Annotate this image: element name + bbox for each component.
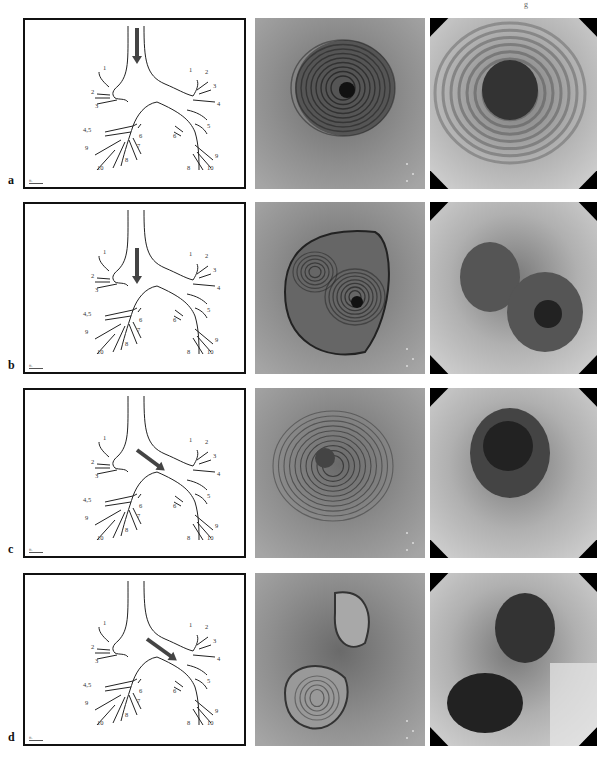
svg-text:8: 8 (125, 526, 128, 533)
svg-text:7: 7 (137, 512, 141, 519)
svg-text:1: 1 (189, 250, 192, 257)
svg-text:4: 4 (217, 470, 221, 477)
bronchial-tree-diagram: 1 2 3 4,5 6 7 8 9 10 1 2 3 4 5 6 8 9 10 … (23, 573, 246, 746)
scale-bar: ft. (29, 363, 43, 369)
virtual-bronchoscopy-image (255, 388, 425, 558)
svg-text:1: 1 (103, 434, 106, 441)
svg-text:3: 3 (95, 472, 98, 479)
svg-text:2: 2 (91, 272, 94, 279)
svg-text:10: 10 (97, 719, 104, 726)
scale-bar: ft. (29, 735, 43, 741)
endoscopic-image (430, 202, 597, 374)
svg-text:5: 5 (207, 492, 210, 499)
svg-text:5: 5 (207, 677, 210, 684)
svg-text:2: 2 (205, 252, 208, 259)
bronchial-tree-drawing: 1 2 3 4,5 6 7 8 9 10 1 2 3 4 5 6 8 9 10 (25, 575, 244, 744)
svg-text:2: 2 (205, 68, 208, 75)
svg-text:10: 10 (97, 348, 104, 355)
svg-text:7: 7 (137, 142, 141, 149)
svg-text:8: 8 (187, 719, 190, 726)
panel-label: c (8, 542, 13, 557)
svg-text:1: 1 (189, 66, 192, 73)
endoscopic-image (430, 388, 597, 558)
svg-text:8: 8 (125, 340, 128, 347)
bronchial-tree-drawing: 1 2 3 4,5 6 7 8 9 10 1 2 3 4 5 6 8 9 10 (25, 204, 244, 372)
figure-row-a: a 1 2 3 4,5 6 7 8 9 10 1 2 3 4 5 6 8 9 1… (0, 18, 612, 189)
svg-text:3: 3 (95, 657, 98, 664)
svg-text:9: 9 (215, 152, 218, 159)
svg-text:10: 10 (97, 534, 104, 541)
svg-text:10: 10 (97, 164, 104, 171)
scale-bar: ft. (29, 547, 43, 553)
svg-text:2: 2 (91, 458, 94, 465)
figure-row-c: c 1 2 3 4,5 6 7 8 9 10 1 2 3 4 5 6 8 9 1… (0, 388, 612, 558)
svg-text:10: 10 (207, 534, 214, 541)
svg-text:8: 8 (187, 164, 190, 171)
svg-text:9: 9 (85, 699, 88, 706)
svg-text:2: 2 (205, 438, 208, 445)
svg-text:6: 6 (139, 687, 143, 694)
svg-text:4,5: 4,5 (83, 496, 91, 503)
svg-text:3: 3 (95, 102, 98, 109)
svg-text:3: 3 (213, 637, 216, 644)
svg-text:9: 9 (85, 144, 88, 151)
svg-text:4,5: 4,5 (83, 126, 91, 133)
svg-text:7: 7 (137, 697, 141, 704)
svg-text:4: 4 (217, 100, 221, 107)
svg-text:2: 2 (91, 88, 94, 95)
virtual-bronchoscopy-image (255, 573, 425, 746)
svg-text:2: 2 (91, 643, 94, 650)
virtual-bronchoscopy-image (255, 18, 425, 189)
svg-text:5: 5 (207, 306, 210, 313)
svg-text:1: 1 (103, 248, 106, 255)
virtual-bronchoscopy-image (255, 202, 425, 374)
svg-text:8: 8 (187, 534, 190, 541)
svg-text:3: 3 (213, 452, 216, 459)
bronchial-tree-diagram: 1 2 3 4,5 6 7 8 9 10 1 2 3 4 5 6 8 9 10 … (23, 202, 246, 374)
svg-text:9: 9 (85, 514, 88, 521)
panel-label: a (8, 173, 14, 188)
panel-label: d (8, 730, 15, 745)
svg-text:8: 8 (125, 711, 128, 718)
svg-text:1: 1 (103, 64, 106, 71)
figure-row-d: d 1 2 3 4,5 6 7 8 9 10 1 2 3 4 5 6 8 9 1… (0, 573, 612, 746)
svg-text:4,5: 4,5 (83, 681, 91, 688)
svg-text:2: 2 (205, 623, 208, 630)
svg-text:10: 10 (207, 719, 214, 726)
svg-text:9: 9 (85, 328, 88, 335)
svg-text:10: 10 (207, 164, 214, 171)
svg-text:7: 7 (137, 326, 141, 333)
bronchial-tree-drawing: 1 2 3 4,5 6 7 8 9 10 1 2 3 4 5 6 8 9 10 (25, 390, 244, 556)
endoscopic-image (430, 18, 597, 189)
svg-text:8: 8 (187, 348, 190, 355)
svg-text:3: 3 (213, 82, 216, 89)
endoscopic-image (430, 573, 597, 746)
bronchial-tree-diagram: 1 2 3 4,5 6 7 8 9 10 1 2 3 4 5 6 8 9 10 … (23, 388, 246, 558)
svg-text:1: 1 (103, 619, 106, 626)
svg-text:9: 9 (215, 522, 218, 529)
svg-text:9: 9 (215, 336, 218, 343)
svg-text:1: 1 (189, 436, 192, 443)
svg-text:10: 10 (207, 348, 214, 355)
panel-label: b (8, 358, 15, 373)
svg-text:4: 4 (217, 655, 221, 662)
bronchial-tree-diagram: 1 2 3 4,5 6 7 8 9 10 1 2 3 4 5 6 8 9 10 … (23, 18, 246, 189)
bronchial-tree-drawing: 1 2 3 4,5 6 7 8 9 10 1 2 3 4 5 6 8 9 10 (25, 20, 244, 187)
svg-text:1: 1 (189, 621, 192, 628)
svg-text:3: 3 (95, 286, 98, 293)
svg-text:9: 9 (215, 707, 218, 714)
svg-text:6: 6 (139, 502, 143, 509)
svg-text:6: 6 (139, 316, 143, 323)
svg-text:4: 4 (217, 284, 221, 291)
scale-bar: ft. (29, 178, 43, 184)
svg-text:5: 5 (207, 122, 210, 129)
svg-text:6: 6 (139, 132, 143, 139)
figure-row-b: b 1 2 3 4,5 6 7 8 9 10 1 2 3 4 5 6 8 9 1… (0, 202, 612, 374)
page-corner-mark: g (524, 0, 528, 9)
svg-text:3: 3 (213, 266, 216, 273)
svg-text:4,5: 4,5 (83, 310, 91, 317)
svg-text:8: 8 (125, 156, 128, 163)
